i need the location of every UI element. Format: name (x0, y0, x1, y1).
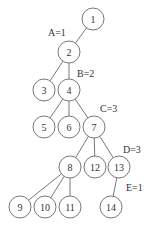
tree-node-1: 1 (82, 8, 104, 30)
tree-node-11: 11 (59, 196, 81, 218)
edge-13-14 (113, 178, 117, 196)
tree-node-6: 6 (58, 116, 80, 138)
tree-node-2: 2 (58, 41, 80, 63)
tree-node-4: 4 (58, 79, 80, 101)
edge-8-10 (51, 176, 64, 197)
tree-diagram: 1234567812139101114 A=1B=2C=3D=3E=1 (0, 0, 148, 227)
node-label: 3 (42, 85, 47, 96)
tree-node-7: 7 (83, 116, 105, 138)
node-label: 7 (92, 122, 97, 133)
edge-weight-label: D=3 (123, 144, 141, 155)
node-label: 10 (40, 202, 50, 213)
edge-2-3 (50, 61, 63, 81)
node-label: 4 (67, 85, 72, 96)
edge-weight-label: E=1 (126, 182, 143, 193)
edge-7-13 (100, 136, 113, 157)
tree-node-10: 10 (34, 196, 56, 218)
tree-node-3: 3 (33, 79, 55, 101)
tree-node-12: 12 (84, 156, 106, 178)
node-label: 8 (68, 162, 73, 173)
node-label: 1 (91, 14, 96, 25)
edge-4-5 (50, 99, 63, 118)
node-label: 14 (106, 202, 116, 213)
tree-node-9: 9 (9, 196, 31, 218)
edge-4-7 (75, 99, 88, 118)
edge-7-8 (76, 136, 89, 157)
node-label: 11 (65, 202, 75, 213)
tree-node-5: 5 (33, 116, 55, 138)
tree-node-14: 14 (100, 196, 122, 218)
tree-node-8: 8 (59, 156, 81, 178)
node-label: 12 (90, 162, 100, 173)
tree-node-13: 13 (108, 156, 130, 178)
edge-weight-label: B=2 (77, 68, 94, 79)
edge-weight-label: C=3 (100, 103, 117, 114)
edge-1-2 (75, 28, 86, 43)
node-label: 2 (67, 47, 72, 58)
node-label: 5 (42, 122, 47, 133)
node-label: 6 (67, 122, 72, 133)
node-label: 9 (18, 202, 23, 213)
edge-weight-label: A=1 (48, 27, 66, 38)
node-label: 13 (114, 162, 124, 173)
